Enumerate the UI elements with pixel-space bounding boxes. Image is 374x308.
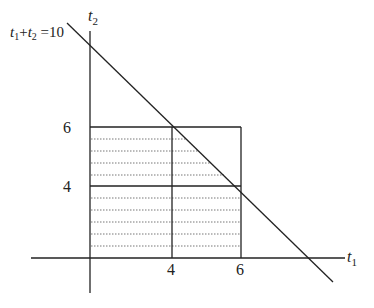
x-tick-4: 4 (167, 261, 175, 278)
diagram-canvas: t1+t2 =10 t2 t1 6 4 4 6 (0, 0, 374, 308)
y-axis-label: t2 (88, 7, 98, 27)
constraint-label: t1+t2 =10 (10, 24, 64, 42)
x-tick-6: 6 (236, 261, 244, 278)
constraint-line (67, 23, 333, 282)
lower-hatching (91, 198, 240, 246)
y-tick-6: 6 (63, 119, 71, 136)
x-axis-label: t1 (347, 248, 357, 268)
y-tick-4: 4 (63, 178, 71, 195)
